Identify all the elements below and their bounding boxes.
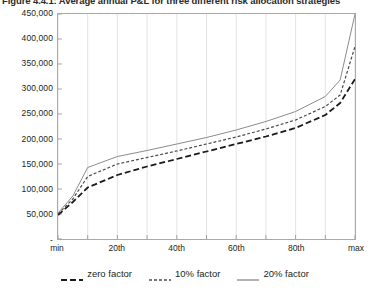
- y-axis-tick-label: 300,000: [1, 84, 53, 93]
- y-axis-tick-label: 250,000: [1, 109, 53, 118]
- legend-swatch-long-dash: [61, 270, 83, 278]
- legend-swatch-short-dash: [149, 270, 171, 278]
- y-axis-tick-label: 350,000: [1, 59, 53, 68]
- y-axis-tick-label: 200,000: [1, 135, 53, 144]
- x-axis-tick-label: 40th: [168, 243, 185, 253]
- legend-item[interactable]: 10% factor: [149, 269, 220, 279]
- legend-label: 10% factor: [175, 269, 220, 279]
- legend-item[interactable]: zero factor: [61, 269, 132, 279]
- chart-title: Figure 4.4.1: Average annual P&L for thr…: [2, 0, 370, 7]
- x-axis-tick-label: min: [50, 243, 64, 253]
- y-axis-tick-label: 100,000: [1, 185, 53, 194]
- y-axis-tick-label: 150,000: [1, 160, 53, 169]
- x-axis-tick-label: 80th: [288, 243, 305, 253]
- plot-area: [57, 13, 356, 240]
- x-axis-tick-label: 20th: [109, 243, 126, 253]
- y-axis-tick-label: 50,000: [1, 210, 53, 219]
- plot-svg: [58, 14, 355, 239]
- y-axis-tick-label: 450,000: [1, 9, 53, 18]
- gridlines: [58, 14, 355, 239]
- chart-legend: zero factor10% factor20% factor: [0, 266, 370, 282]
- legend-label: zero factor: [87, 269, 132, 279]
- chart-figure: Figure 4.4.1: Average annual P&L for thr…: [0, 0, 370, 292]
- y-axis-tick-label: 400,000: [1, 34, 53, 43]
- x-axis-labels: min20th40th60th80thmax: [0, 243, 370, 257]
- legend-item[interactable]: 20% factor: [237, 269, 308, 279]
- x-axis-tick-label: 60th: [228, 243, 245, 253]
- legend-label: 20% factor: [263, 269, 308, 279]
- x-axis-tick-label: max: [348, 243, 364, 253]
- legend-swatch-solid: [237, 270, 259, 278]
